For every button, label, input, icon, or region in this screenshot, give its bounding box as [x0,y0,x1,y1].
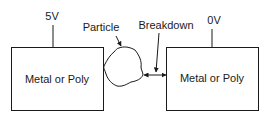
particle-breakdown-diagram: 5V Metal or Poly 0V Metal or Poly Partic… [0,0,267,117]
breakdown-pointer-arrow [156,33,159,72]
right-box-label: Metal or Poly [180,72,245,84]
left-voltage-label: 5V [45,10,59,22]
particle-label: Particle [83,21,120,33]
right-voltage-label: 0V [207,14,221,26]
breakdown-label: Breakdown [138,19,193,31]
particle-shape [104,47,143,86]
particle-pointer-arrow [116,36,121,46]
left-box-label: Metal or Poly [25,73,90,85]
